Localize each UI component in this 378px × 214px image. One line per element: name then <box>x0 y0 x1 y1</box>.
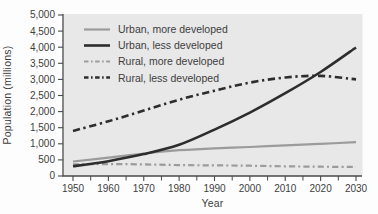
y-tick-label: 4,000 <box>30 42 55 53</box>
x-tick-label: 2020 <box>310 183 333 194</box>
x-tick-label: 2030 <box>345 183 368 194</box>
legend-item-rural-less-developed: Rural, less developed <box>84 70 228 86</box>
legend-item-urban-less-developed: Urban, less developed <box>84 37 228 53</box>
x-axis-title: Year <box>63 197 362 209</box>
x-tick-label: 1960 <box>97 183 120 194</box>
legend-item-urban-more-developed: Urban, more developed <box>84 21 228 37</box>
y-tick-label: 500 <box>38 154 55 165</box>
y-tick-label: 2,500 <box>30 90 55 101</box>
x-tick-label: 2010 <box>274 183 297 194</box>
x-tick-label: 1970 <box>133 183 156 194</box>
legend-label: Urban, more developed <box>118 23 228 35</box>
x-tick-label: 2000 <box>239 183 262 194</box>
legend-swatch-line-icon <box>84 26 110 33</box>
y-tick-label: 2,000 <box>30 106 55 117</box>
y-tick-label: 3,500 <box>30 58 55 69</box>
legend: Urban, more developed Urban, less develo… <box>84 21 228 86</box>
x-tick-label: 1990 <box>203 183 226 194</box>
y-tick-label: 0 <box>49 170 55 181</box>
y-tick-label: 5,000 <box>30 9 55 20</box>
legend-label: Rural, more developed <box>118 55 224 67</box>
y-tick-label: 1,000 <box>30 138 55 149</box>
legend-item-rural-more-developed: Rural, more developed <box>84 53 228 69</box>
y-tick-label: 3,000 <box>30 74 55 85</box>
y-tick-label: 4,500 <box>30 26 55 37</box>
legend-label: Rural, less developed <box>118 72 219 84</box>
population-line-chart: 05001,0001,5002,0002,5003,0003,5004,0004… <box>0 0 378 214</box>
x-tick-label: 1980 <box>168 183 191 194</box>
legend-swatch-line-icon <box>84 58 110 65</box>
legend-swatch-line-icon <box>84 42 110 49</box>
y-axis-title: Population (millions) <box>1 15 15 175</box>
x-tick-label: 1950 <box>62 183 85 194</box>
y-tick-label: 1,500 <box>30 122 55 133</box>
legend-swatch-line-icon <box>84 74 110 81</box>
legend-label: Urban, less developed <box>118 39 222 51</box>
